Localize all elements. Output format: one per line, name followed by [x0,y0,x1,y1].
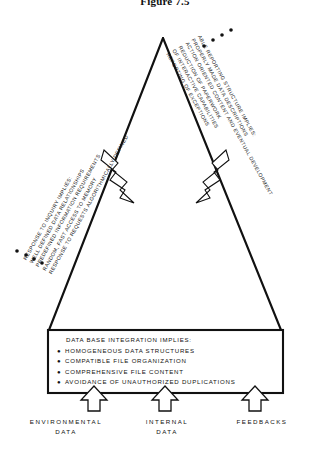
input-label-environmental-line2: DATA [6,427,126,437]
base-box-item-1-label: COMPATIBLE FILE ORGANIZATION [65,357,187,364]
base-box-item-2-label: COMPREHENSIVE FILE CONTENT [65,368,184,375]
base-box-item-3: ●AVOIDANCE OF UNAUTHORIZED DUPLICATIONS [56,377,280,388]
bullet-icon: ● [57,367,65,378]
base-box-item-1: ●COMPATIBLE FILE ORGANIZATION [56,356,280,367]
base-box-item-0: ●HOMOGENEOUS DATA STRUCTURES [56,346,280,357]
base-box-heading: DATA BASE INTEGRATION IMPLIES: [56,335,280,346]
input-label-environmental-line1: ENVIRONMENTAL [6,417,126,427]
bullet-icon: ● [57,356,65,367]
bullet-icon: ● [57,346,65,357]
input-label-internal-line2: DATA [122,427,212,437]
base-box-text: DATA BASE INTEGRATION IMPLIES: ●HOMOGENE… [56,335,280,388]
input-label-internal: INTERNAL DATA [122,417,212,437]
base-box-item-2: ●COMPREHENSIVE FILE CONTENT [56,367,280,378]
bullet-icon: ● [57,377,65,388]
input-label-feedbacks: FEEDBACKS [210,417,314,427]
input-label-internal-line1: INTERNAL [122,417,212,427]
input-label-environmental: ENVIRONMENTAL DATA [6,417,126,437]
base-box-item-0-label: HOMOGENEOUS DATA STRUCTURES [65,347,195,354]
figure-container: Figure 7.5 [0,0,330,449]
input-label-feedbacks-line1: FEEDBACKS [210,417,314,427]
base-box-item-3-label: AVOIDANCE OF UNAUTHORIZED DUPLICATIONS [65,378,235,385]
